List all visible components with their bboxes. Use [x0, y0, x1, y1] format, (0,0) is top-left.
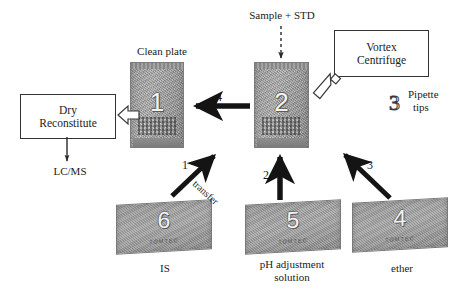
arrow-step-3	[345, 155, 390, 198]
workflow-diagram: Clean plate Sample + STD LC/MS IS pH adj…	[0, 0, 462, 298]
block-arrow-to-vortex-centrifuge	[312, 73, 342, 99]
arrow-step-1	[172, 156, 214, 196]
arrow-layer	[0, 0, 462, 298]
block-arrow-to-dry-reconstitute	[118, 106, 139, 124]
